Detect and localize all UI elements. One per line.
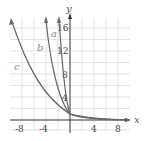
x-tick: -4: [39, 124, 48, 134]
arrow-c: [9, 18, 14, 25]
y-axis-label: y: [65, 3, 72, 14]
curve-label-c: c: [14, 61, 20, 72]
x-axis-label: x: [134, 114, 140, 125]
x-tick: 8: [115, 124, 121, 134]
y-tick: 12: [57, 46, 68, 56]
arrow-a: [57, 16, 61, 23]
x-tick: -8: [15, 124, 24, 134]
curve-label-b: b: [37, 42, 43, 53]
axes: [10, 13, 131, 133]
arrow-b: [44, 16, 48, 23]
x-tick: 4: [91, 124, 97, 134]
curve-label-a: a: [51, 28, 57, 39]
exponential-graph: x y -8 -4 4 8 4 8 12 16 a b c: [0, 0, 149, 141]
